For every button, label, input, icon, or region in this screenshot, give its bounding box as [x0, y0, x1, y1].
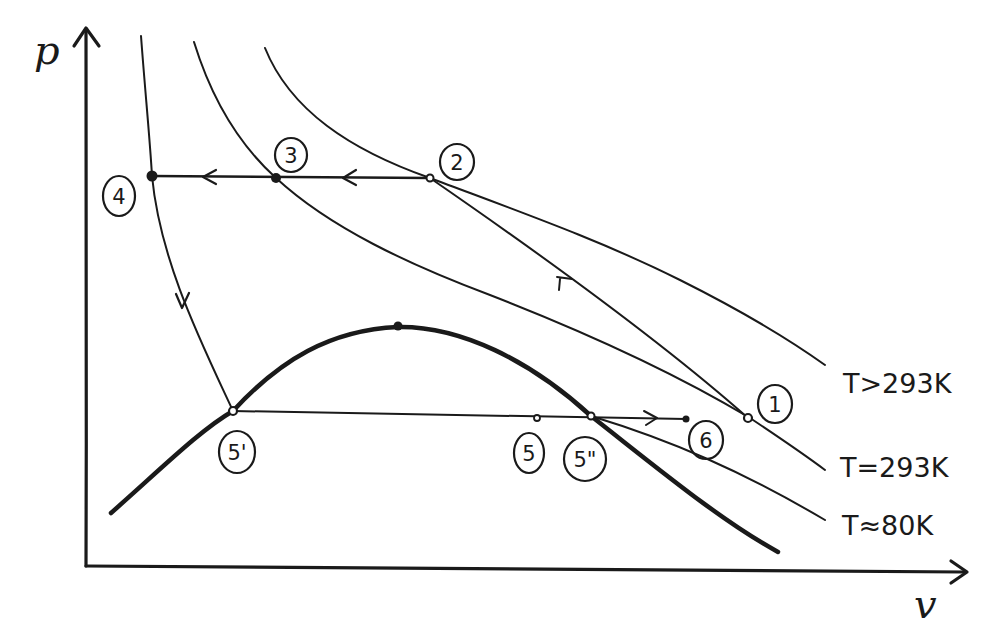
svg-text:5: 5	[522, 442, 535, 466]
x-axis-label: v	[914, 581, 937, 627]
isotherm-label-t-above-293: T>293K	[842, 368, 953, 399]
state-point-1	[744, 414, 752, 422]
svg-text:6: 6	[699, 429, 712, 453]
state-point-5pp	[588, 413, 595, 420]
isobar-2-to-4	[152, 176, 430, 178]
state-label-3: 3	[275, 138, 307, 172]
state-label-2: 2	[440, 144, 474, 180]
state-label-5: 5	[514, 433, 544, 473]
saturation-dome	[111, 327, 778, 552]
state-label-6: 6	[689, 421, 723, 459]
isotherm-t-80-liquid	[141, 36, 233, 411]
process-5p-to-6	[233, 411, 686, 419]
svg-text:5': 5'	[227, 441, 246, 465]
process-1-to-2	[430, 178, 748, 418]
arrow-up-left-icon	[557, 277, 572, 290]
state-label-5pp: 5"	[564, 437, 606, 481]
critical-point	[394, 322, 403, 331]
state-point-4	[147, 171, 158, 182]
state-point-6	[683, 416, 690, 423]
pv-diagram: p v 1 2 3 4 5'	[0, 0, 993, 642]
isotherm-label-t-80: T≈80K	[841, 510, 934, 541]
state-point-3	[271, 173, 281, 183]
state-point-5p	[229, 407, 237, 415]
svg-text:3: 3	[284, 144, 297, 168]
x-axis	[86, 561, 967, 583]
state-point-5	[534, 415, 540, 421]
state-point-2	[427, 175, 434, 182]
state-label-4: 4	[103, 176, 135, 216]
svg-text:1: 1	[768, 393, 781, 417]
state-label-1: 1	[758, 385, 792, 423]
isotherm-label-t-293: T=293K	[839, 452, 950, 483]
svg-text:4: 4	[112, 185, 125, 209]
isotherm-t-293	[194, 42, 825, 470]
state-label-5p: 5'	[219, 431, 255, 473]
y-axis-label: p	[34, 27, 60, 73]
svg-text:2: 2	[450, 151, 463, 175]
svg-text:5": 5"	[573, 448, 596, 472]
y-axis	[74, 28, 99, 566]
